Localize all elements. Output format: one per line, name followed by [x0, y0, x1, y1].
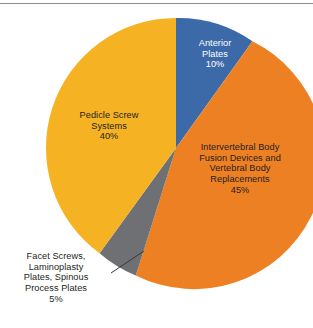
slice-label-facet-screws-laminoplasty: Facet Screws, Laminoplasty Plates, Spino… [4, 251, 108, 304]
slice-percent-value: 5% [4, 294, 108, 305]
slice-label-line: Process Plates [4, 283, 108, 294]
slice-label-line: Vertebral Body [178, 163, 302, 174]
slice-label-line: Laminoplasty [4, 262, 108, 273]
slice-label-line: Plates [178, 49, 252, 60]
slice-label-pedicle-screw-systems: Pedicle Screw Systems 40% [57, 110, 161, 142]
slice-label-line: Pedicle Screw [57, 110, 161, 121]
slice-label-line: Intervertebral Body [178, 142, 302, 153]
slice-label-anterior-plates: Anterior Plates 10% [178, 38, 252, 70]
slice-label-line: Fusion Devices and [178, 153, 302, 164]
slice-label-line: Anterior [178, 38, 252, 49]
slice-label-intervertebral-body-fusion: Intervertebral Body Fusion Devices and V… [178, 142, 302, 195]
slice-label-line: Facet Screws, [4, 251, 108, 262]
slice-percent-value: 40% [57, 131, 161, 142]
slice-label-line: Replacements [178, 174, 302, 185]
slice-percent-value: 10% [178, 59, 252, 70]
slice-label-line: Plates, Spinous [4, 272, 108, 283]
pie-chart-figure: Anterior Plates 10% Intervertebral Body … [0, 0, 313, 328]
slice-percent-value: 45% [178, 185, 302, 196]
slice-label-line: Systems [57, 121, 161, 132]
